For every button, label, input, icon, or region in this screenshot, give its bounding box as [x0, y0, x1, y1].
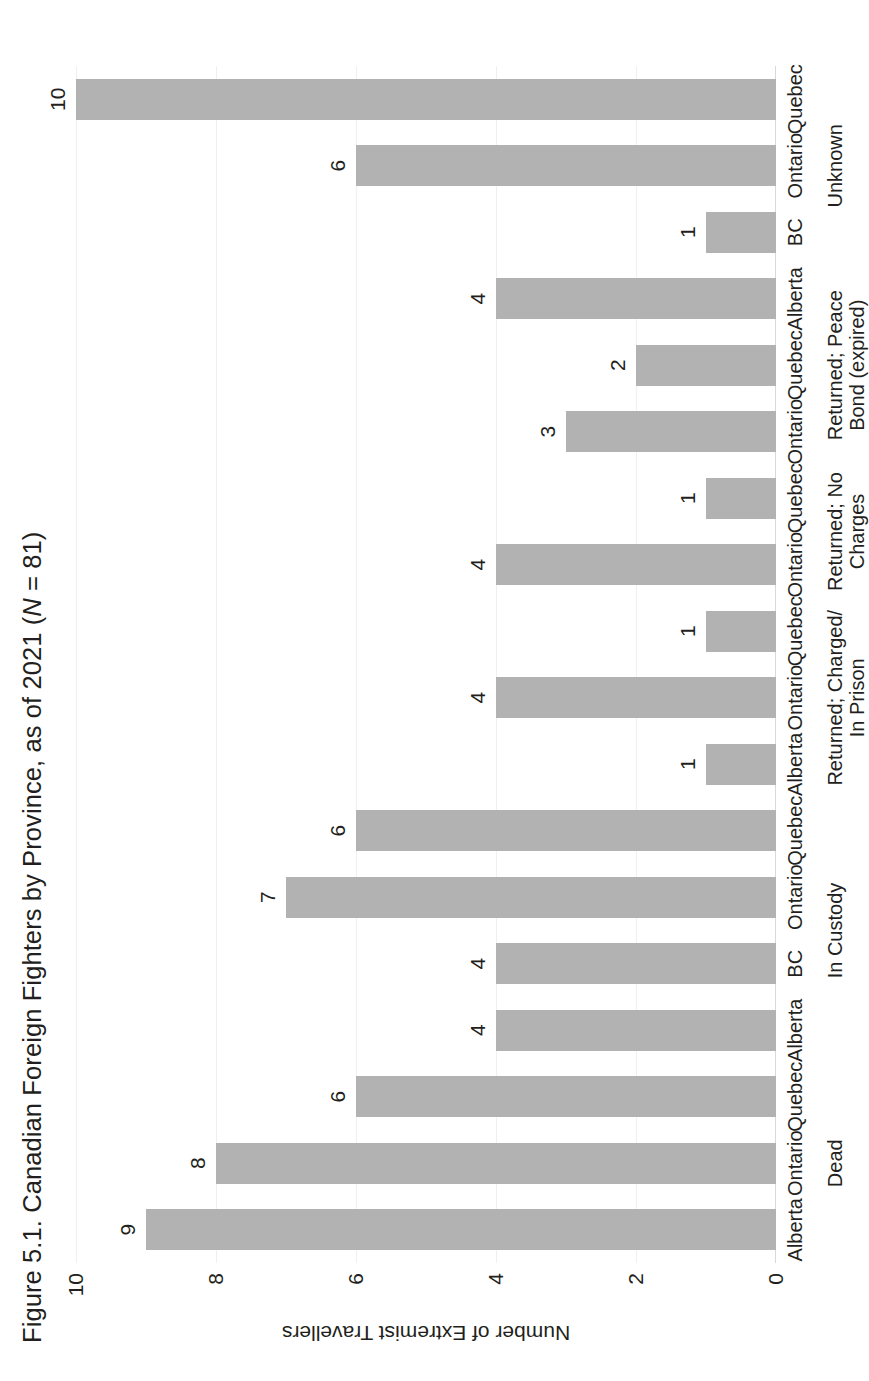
group-label-line: Returned; Peace — [824, 255, 846, 475]
y-axis-title: Number of Extremist Travellers — [76, 1317, 776, 1345]
bar-value-label: 10 — [46, 79, 70, 119]
bar: 7 — [286, 877, 776, 918]
bar-value-label: 4 — [466, 279, 490, 319]
bar: 6 — [356, 810, 776, 851]
bar-value-label: 1 — [676, 744, 700, 784]
bar: 3 — [566, 411, 776, 452]
bar: 1 — [706, 744, 776, 785]
bar-chart-plot-area: Number of Extremist Travellers 0246810 9… — [76, 66, 776, 1263]
bar-value-label: 1 — [676, 611, 700, 651]
figure-title-suffix: = 81) — [18, 532, 46, 599]
bar-value-label: 2 — [606, 345, 630, 385]
y-tick-label: 2 — [624, 1273, 648, 1285]
category-label: Quebec — [784, 39, 807, 159]
bar: 9 — [146, 1209, 776, 1250]
group-label-line: Bond (expired) — [846, 255, 868, 475]
bar: 4 — [496, 677, 776, 718]
bar-value-label: 4 — [466, 944, 490, 984]
group-label-line: Dead — [824, 1053, 846, 1273]
figure-title-prefix: Figure 5.1. Canadian Foreign Fighters by… — [18, 617, 46, 1343]
y-tick-label: 4 — [484, 1273, 508, 1285]
bar-value-label: 1 — [676, 478, 700, 518]
group-label: Dead — [824, 1053, 846, 1273]
bar: 10 — [76, 79, 776, 120]
bar-value-label: 4 — [466, 545, 490, 585]
group-label: Unknown — [824, 56, 846, 276]
bar: 2 — [636, 345, 776, 386]
group-label-line: Unknown — [824, 56, 846, 276]
bar-value-label: 7 — [256, 877, 280, 917]
bar: 4 — [496, 544, 776, 585]
bar: 4 — [496, 278, 776, 319]
figure-title-n-symbol: N — [18, 598, 46, 617]
bar: 6 — [356, 145, 776, 186]
bar: 1 — [706, 212, 776, 253]
y-tick-label: 6 — [344, 1273, 368, 1285]
bar: 4 — [496, 943, 776, 984]
bar-value-label: 8 — [186, 1143, 210, 1183]
group-label-line: In Custody — [824, 821, 846, 1041]
gridline — [216, 66, 217, 1263]
bar: 4 — [496, 1010, 776, 1051]
bar: 8 — [216, 1143, 776, 1184]
figure-title: Figure 5.1. Canadian Foreign Fighters by… — [18, 532, 47, 1343]
bar-value-label: 4 — [466, 1010, 490, 1050]
bar-value-label: 9 — [116, 1210, 140, 1250]
bar-value-label: 4 — [466, 678, 490, 718]
bar-value-label: 3 — [536, 412, 560, 452]
bar-value-label: 6 — [326, 1077, 350, 1117]
bar: 1 — [706, 611, 776, 652]
bar: 1 — [706, 478, 776, 519]
bar-value-label: 6 — [326, 146, 350, 186]
gridline — [76, 66, 77, 1263]
y-tick-label: 10 — [64, 1273, 88, 1296]
bar: 6 — [356, 1076, 776, 1117]
bar-value-label: 1 — [676, 212, 700, 252]
bar-value-label: 6 — [326, 811, 350, 851]
y-tick-label: 8 — [204, 1273, 228, 1285]
group-label: In Custody — [824, 821, 846, 1041]
group-label: Returned; PeaceBond (expired) — [824, 255, 869, 475]
